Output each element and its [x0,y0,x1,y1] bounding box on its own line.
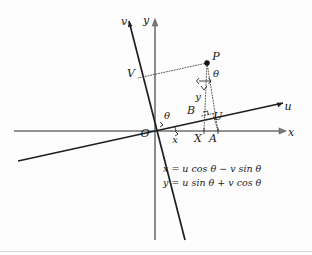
figure-container: x y u v O P V U B X A θ θ x y x = u cos … [0,0,312,255]
v-axis-label: v [121,15,128,28]
x-component-label: x [172,134,178,145]
construction-lines-group [138,63,218,131]
dotted-p-to-v [138,63,207,78]
u-axis-arrowhead [277,103,283,108]
y-axis-label: y [142,14,150,27]
rotation-of-axes-diagram: x y u v O P V U B X A θ θ x y x = u cos … [0,0,312,255]
x-segment-left-arrow [160,122,163,127]
point-x-foot-label: X [193,132,203,145]
point-p-marker [204,60,209,65]
point-a-label: A [208,132,217,145]
point-u-label: U [213,110,223,123]
point-b-label: B [186,104,195,117]
u-axis-line [18,103,283,161]
theta-p-left-arrow [197,78,200,84]
theta-origin-label: θ [164,110,170,121]
formula-line-1: x = u cos θ − v sin θ [163,163,262,174]
formula-line-2: y = u sin θ + v cos θ [162,177,262,188]
theta-point-label: θ [213,68,219,79]
bottom-divider [0,251,312,252]
y-component-label: y [194,91,201,102]
point-p-label: P [211,50,220,63]
origin-label: O [140,127,149,140]
x-axis-label: x [288,126,295,139]
u-axis-label: u [284,100,291,113]
point-v-label: V [127,67,136,80]
